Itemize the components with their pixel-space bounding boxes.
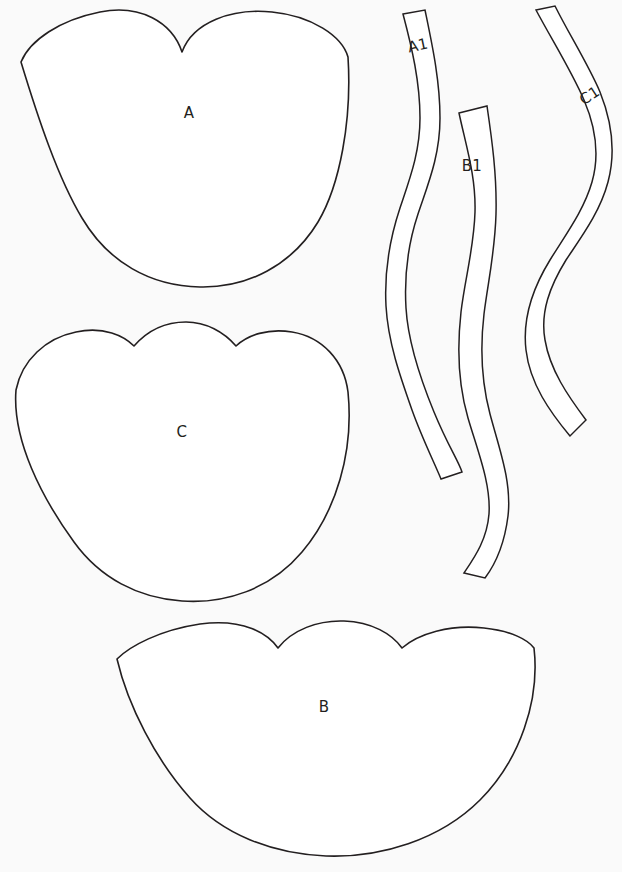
gusset-strip-group: A1 B1 C1 bbox=[386, 6, 613, 578]
piece-b-outline[interactable] bbox=[117, 621, 535, 856]
piece-c-outline[interactable] bbox=[16, 322, 350, 601]
pattern-piece-c[interactable]: C bbox=[16, 322, 350, 601]
pattern-strip-a1[interactable]: A1 bbox=[386, 10, 462, 479]
pattern-strip-c1[interactable]: C1 bbox=[525, 6, 612, 436]
piece-b-label: B bbox=[319, 698, 330, 716]
piece-c-label: C bbox=[177, 423, 188, 441]
strip-a1-outline[interactable] bbox=[386, 10, 462, 479]
strip-b1-label: B1 bbox=[462, 157, 482, 175]
pattern-piece-b[interactable]: B bbox=[117, 621, 535, 856]
piece-a-label: A bbox=[184, 104, 195, 122]
pattern-sheet: A C B A1 B1 C1 bbox=[0, 0, 622, 872]
strip-b1-outline[interactable] bbox=[459, 106, 509, 578]
piece-a-outline[interactable] bbox=[21, 10, 349, 287]
body-panel-group: A C B bbox=[16, 10, 535, 856]
strip-c1-outline[interactable] bbox=[525, 6, 612, 436]
pattern-canvas: A C B A1 B1 C1 bbox=[0, 0, 622, 872]
pattern-piece-a[interactable]: A bbox=[21, 10, 349, 287]
pattern-strip-b1[interactable]: B1 bbox=[459, 106, 509, 578]
